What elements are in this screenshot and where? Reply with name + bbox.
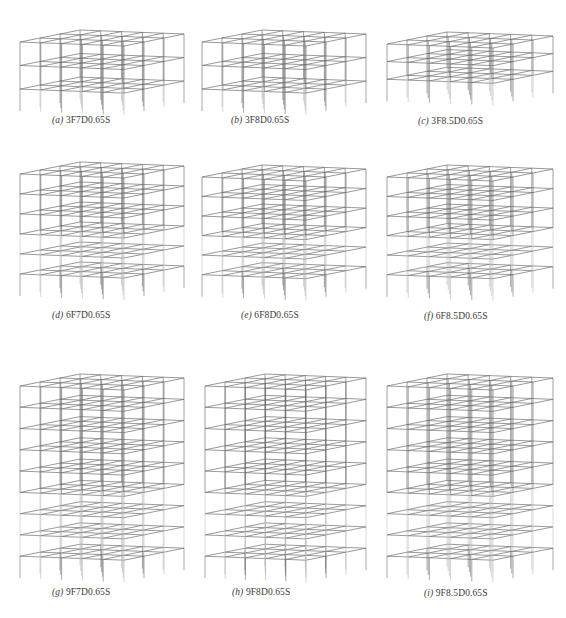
caption-letter: (b) bbox=[231, 115, 242, 125]
caption-g: (g) 9F7D0.65S bbox=[52, 587, 110, 597]
frame-wireframe-9-story bbox=[385, 372, 555, 598]
caption-letter: (i) bbox=[424, 588, 433, 598]
caption-letter: (g) bbox=[52, 587, 63, 597]
caption-letter: (a) bbox=[52, 115, 63, 125]
frame-wireframe-3-story bbox=[385, 30, 555, 116]
caption-d: (d) 6F7D0.65S bbox=[52, 310, 110, 320]
caption-label: 6F7D0.65S bbox=[66, 310, 110, 320]
caption-letter: (c) bbox=[418, 116, 429, 126]
caption-letter: (h) bbox=[232, 587, 243, 597]
frame-wireframe-6-story bbox=[18, 160, 186, 314]
caption-label: 3F8.5D0.65S bbox=[431, 116, 483, 126]
caption-label: 9F7D0.65S bbox=[66, 587, 110, 597]
caption-b: (b) 3F8D0.65S bbox=[231, 115, 289, 125]
caption-label: 6F8.5D0.65S bbox=[436, 311, 488, 321]
caption-label: 3F8D0.65S bbox=[245, 115, 289, 125]
caption-label: 9F8D0.65S bbox=[246, 587, 290, 597]
caption-c: (c) 3F8.5D0.65S bbox=[418, 116, 483, 126]
caption-label: 9F8.5D0.65S bbox=[436, 588, 488, 598]
caption-label: 3F7D0.65S bbox=[66, 115, 110, 125]
frame-wireframe-6-story bbox=[200, 163, 368, 314]
frame-wireframe-9-story bbox=[203, 372, 368, 598]
caption-i: (i) 9F8.5D0.65S bbox=[424, 588, 488, 598]
caption-e: (e) 6F8D0.65S bbox=[241, 310, 299, 320]
frame-wireframe-6-story bbox=[385, 163, 555, 314]
caption-f: (f) 6F8.5D0.65S bbox=[424, 311, 488, 321]
caption-letter: (d) bbox=[52, 310, 63, 320]
caption-label: 6F8D0.65S bbox=[254, 310, 298, 320]
caption-h: (h) 9F8D0.65S bbox=[232, 587, 290, 597]
caption-letter: (e) bbox=[241, 310, 252, 320]
caption-a: (a) 3F7D0.65S bbox=[52, 115, 110, 125]
frame-wireframe-9-story bbox=[18, 372, 186, 598]
caption-letter: (f) bbox=[424, 311, 433, 321]
